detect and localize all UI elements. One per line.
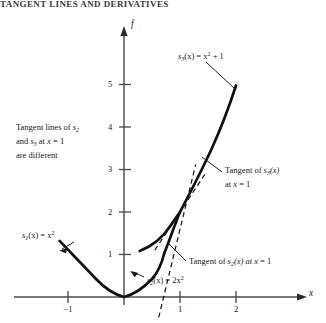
leader-tangent-s2: [169, 244, 186, 261]
x-tick-label-minus1: −1: [58, 304, 78, 314]
y-ticks: [119, 85, 131, 255]
tan3-line-2: at x = 1: [225, 179, 279, 191]
tan2-f: = 1: [258, 256, 271, 266]
tan3-line-1: Tangent of s3(x): [225, 165, 279, 179]
tan3-l2-c: = 1: [237, 179, 250, 189]
y-tick-label-2: 2: [104, 207, 116, 217]
tangent-line-s2: [159, 164, 196, 317]
y-tick-label-5: 5: [104, 79, 116, 89]
note-line-2: and s3 at x = 1: [16, 136, 79, 150]
y-tick-label-3: 3: [104, 164, 116, 174]
label-s3-function: s3(x) = x2 + 1: [178, 49, 224, 65]
label-s1-function: s1(x) = x2: [22, 228, 55, 244]
curve-s3: [140, 86, 236, 252]
x-tick-label-1: 1: [172, 304, 188, 314]
label-s3-tail: + 1: [211, 51, 224, 61]
label-s2-function: s2(x) = 2x2: [147, 273, 184, 289]
x-axis-arrowhead: [297, 294, 307, 301]
label-tangent-s3: Tangent of s3(x) at x = 1: [225, 165, 279, 191]
label-s1-pow: 2: [52, 230, 55, 236]
tan3-l1-a: Tangent of: [225, 165, 264, 175]
note-line-3: are different: [16, 150, 79, 162]
leader-s1-arrowhead: [59, 248, 67, 254]
note-l1-c: 2: [76, 127, 79, 133]
label-tangent-s2: Tangent of s2(x) at x = 1: [189, 256, 271, 270]
tan2-a: Tangent of: [189, 256, 228, 266]
y-axis-arrowhead: [120, 26, 127, 36]
note-tangents-differ: Tangent lines of s2 and s3 at x = 1 are …: [16, 122, 79, 162]
label-s2-rest: (x) = 2x: [153, 275, 180, 285]
y-tick-label-1: 1: [104, 249, 116, 259]
note-l1-a: Tangent lines of: [16, 122, 73, 132]
label-s3-rest: (x) = x: [184, 51, 207, 61]
x-tick-label-2: 2: [228, 304, 244, 314]
tan3-l1-d: (x): [270, 165, 279, 175]
tan2-d: (x) at: [234, 256, 254, 266]
label-s2-pow: 2: [181, 275, 184, 281]
x-axis-label: x: [309, 288, 313, 298]
label-s1-rest: (x) = x: [28, 230, 51, 240]
tangent-line-s3: [155, 174, 205, 250]
y-tick-label-4: 4: [104, 122, 116, 132]
note-line-1: Tangent lines of s2: [16, 122, 79, 136]
y-axis-label: f: [131, 19, 134, 29]
note-l2-f: = 1: [51, 136, 64, 146]
leader-s2-arrowhead: [130, 271, 138, 277]
note-l2-a: and: [16, 136, 30, 146]
leader-s3-label: [206, 62, 234, 88]
note-l2-d: at: [37, 136, 47, 146]
